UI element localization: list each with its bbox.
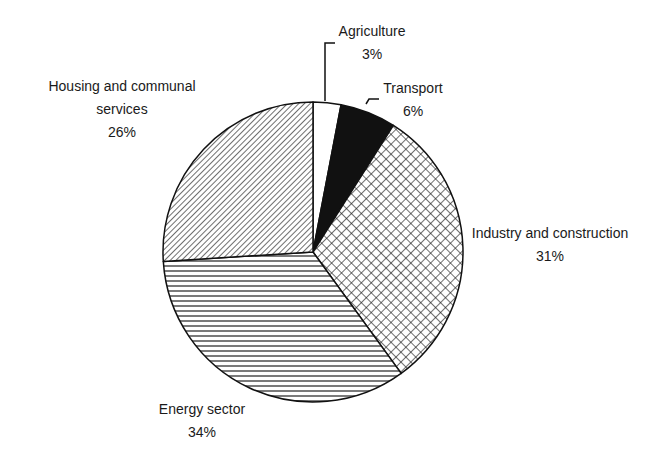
label-energy: Energy sector 34% (159, 398, 245, 444)
label-transport-pct: 6% (383, 100, 442, 123)
transport-leader-line (366, 99, 379, 104)
agriculture-leader-line (325, 43, 335, 101)
label-industry: Industry and construction 31% (472, 222, 628, 268)
label-agriculture-pct: 3% (339, 43, 406, 66)
label-agriculture-name: Agriculture (339, 20, 406, 43)
label-industry-name: Industry and construction (472, 222, 628, 245)
label-agriculture: Agriculture 3% (339, 20, 406, 66)
label-transport-name: Transport (383, 77, 442, 100)
label-transport: Transport 6% (383, 77, 442, 123)
label-energy-pct: 34% (159, 421, 245, 444)
label-housing-line1: Housing and communal (48, 75, 195, 98)
label-housing: Housing and communal services 26% (48, 75, 195, 144)
label-housing-line2: services (48, 98, 195, 121)
label-industry-pct: 31% (472, 245, 628, 268)
label-housing-pct: 26% (48, 121, 195, 144)
label-energy-name: Energy sector (159, 398, 245, 421)
